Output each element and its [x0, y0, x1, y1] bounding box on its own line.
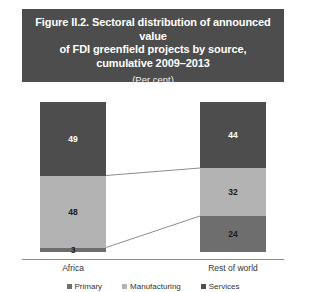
legend-label-primary: Primary	[75, 282, 103, 291]
legend-label-manufacturing: Manufacturing	[130, 282, 181, 291]
bar-value-africa-manufacturing: 48	[68, 207, 77, 217]
bar-value-rest-of-world-manufacturing: 32	[228, 187, 237, 197]
legend-swatch-primary	[67, 284, 72, 289]
stacked-bar-rest-of-world[interactable]: 44 32 24	[200, 102, 266, 252]
bar-segment-rest-of-world-manufacturing[interactable]: 32	[200, 168, 266, 216]
figure-title-line-1: Figure II.2. Sectoral distribution of an…	[28, 16, 278, 43]
bar-value-africa-services: 49	[68, 134, 77, 144]
bar-value-rest-of-world-primary: 24	[228, 229, 237, 239]
x-axis-line	[22, 259, 284, 260]
chart-legend: Primary Manufacturing Services	[22, 282, 284, 291]
bar-segment-africa-primary[interactable]: 3	[40, 248, 106, 253]
x-axis-label-africa: Africa	[40, 263, 106, 273]
bar-segment-rest-of-world-primary[interactable]: 24	[200, 216, 266, 252]
bar-segment-rest-of-world-services[interactable]: 44	[200, 102, 266, 168]
figure-title-line-3: cumulative 2009–2013	[28, 57, 278, 71]
legend-item-services[interactable]: Services	[201, 282, 240, 291]
legend-item-primary[interactable]: Primary	[67, 282, 103, 291]
figure-title-line-2: of FDI greenfield projects by source,	[28, 43, 278, 57]
legend-swatch-services	[201, 284, 206, 289]
chart-panel: 49 48 3 44 32 24 Africa Rest of world	[22, 90, 284, 292]
bar-segment-africa-manufacturing[interactable]: 48	[40, 176, 106, 248]
chart-plot-area: 49 48 3 44 32 24 Africa Rest of world	[22, 97, 284, 252]
stacked-bar-africa[interactable]: 49 48 3	[40, 102, 106, 252]
legend-swatch-manufacturing	[122, 284, 127, 289]
figure-title-banner: Figure II.2. Sectoral distribution of an…	[22, 9, 284, 82]
x-axis-label-rest-of-world: Rest of world	[192, 263, 274, 273]
bar-segment-africa-services[interactable]: 49	[40, 102, 106, 176]
figure-subtitle: (Per cent)	[28, 73, 278, 86]
legend-label-services: Services	[209, 282, 240, 291]
legend-item-manufacturing[interactable]: Manufacturing	[122, 282, 181, 291]
bar-value-rest-of-world-services: 44	[228, 130, 237, 140]
